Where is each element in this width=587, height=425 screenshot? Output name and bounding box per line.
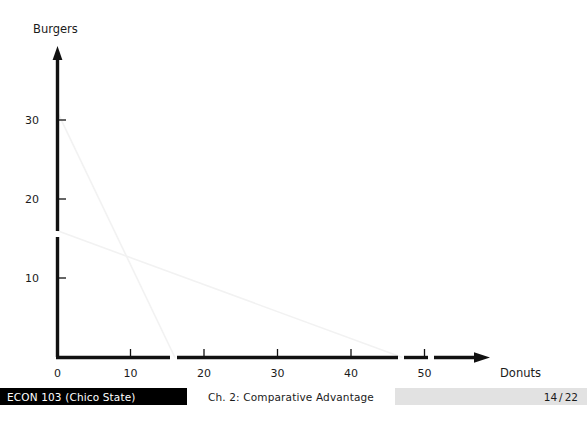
- footer-chapter-block: Ch. 2: Comparative Advantage: [187, 388, 395, 405]
- footer-page-separator: /: [557, 391, 565, 403]
- x-tick-label-50: 50: [418, 367, 432, 380]
- y-tick-label-30: 30: [25, 114, 39, 127]
- slide-footer: ECON 103 (Chico State) Ch. 2: Comparativ…: [0, 388, 587, 425]
- footer-course-label: ECON 103 (Chico State): [7, 391, 136, 403]
- ppf-chart: Burgers Donuts 30 20 10 0 10 20 30 40 50: [0, 0, 587, 388]
- x-tick-label-40: 40: [344, 367, 358, 380]
- y-axis-title: Burgers: [33, 22, 78, 36]
- ppf-chart-svg: Burgers Donuts 30 20 10 0 10 20 30 40 50: [0, 0, 587, 388]
- footer-page-current: 14: [544, 391, 557, 403]
- x-axis: [56, 349, 490, 363]
- ppf-lines: [58, 112, 403, 357]
- footer-course-block: ECON 103 (Chico State): [0, 388, 187, 405]
- x-tick-label-0: 0: [54, 367, 61, 380]
- x-axis-title: Donuts: [500, 366, 541, 380]
- x-tick-label-10: 10: [124, 367, 138, 380]
- ppf-line-steep: [58, 112, 175, 357]
- footer-chapter-label: Ch. 2: Comparative Advantage: [208, 391, 374, 403]
- footer-bar: ECON 103 (Chico State) Ch. 2: Comparativ…: [0, 388, 587, 405]
- ppf-line-shallow: [58, 231, 403, 358]
- y-tick-label-20: 20: [25, 193, 39, 206]
- x-tick-label-30: 30: [271, 367, 285, 380]
- slide-body: Burgers Donuts 30 20 10 0 10 20 30 40 50: [0, 0, 587, 388]
- x-axis-arrowhead: [474, 352, 490, 362]
- y-tick-label-10: 10: [25, 272, 39, 285]
- y-axis-arrowhead: [53, 46, 63, 60]
- y-axis: [53, 46, 66, 357]
- footer-page-total: 22: [565, 391, 578, 403]
- footer-page-block: 14 / 22: [395, 388, 587, 405]
- x-tick-label-20: 20: [197, 367, 211, 380]
